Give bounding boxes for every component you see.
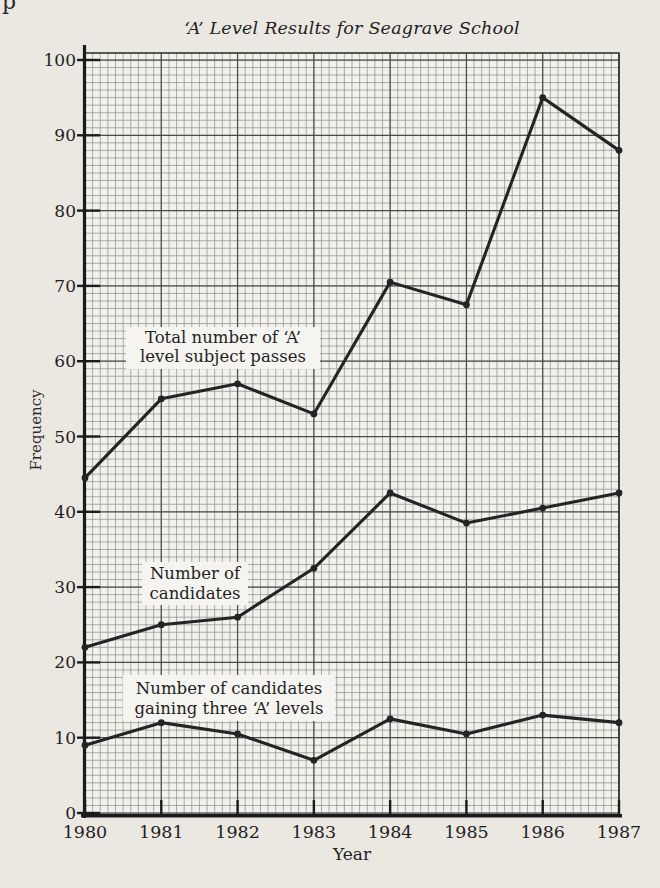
y-tick-label: 30	[54, 577, 76, 597]
data-point	[158, 719, 165, 726]
series-label-text: gaining three ‘A’ levels	[135, 699, 324, 718]
data-point	[310, 565, 317, 572]
x-tick-label: 1984	[368, 822, 413, 842]
data-point	[539, 505, 546, 512]
x-tick-labels: 19801981198219831984198519861987	[63, 822, 642, 842]
scanned-book-page: p ‘A’ Level Results for Seagrave School …	[0, 0, 660, 888]
data-point	[463, 520, 470, 527]
series-label-2: Number of candidatesgaining three ‘A’ le…	[123, 675, 335, 721]
y-tick-label: 90	[54, 125, 76, 145]
data-point	[387, 715, 394, 722]
data-point	[616, 719, 623, 726]
data-point	[463, 731, 470, 738]
series-label-text: Total number of ‘A’	[145, 328, 301, 347]
x-tick-label: 1987	[597, 822, 642, 842]
x-tick-label: 1986	[520, 822, 565, 842]
y-tick-labels: 0102030405060708090100	[44, 50, 76, 823]
data-point	[310, 411, 317, 418]
x-tick-label: 1982	[215, 822, 260, 842]
x-tick-label: 1983	[292, 822, 337, 842]
data-point	[616, 147, 623, 154]
x-axis-label: Year	[85, 844, 619, 864]
data-point	[539, 712, 546, 719]
series-label-text: Number of candidates	[136, 679, 322, 698]
y-tick-label: 50	[54, 427, 76, 447]
series-label-0: Total number of ‘A’level subject passes	[126, 327, 320, 369]
x-tick-label: 1985	[444, 822, 489, 842]
y-tick-label: 20	[54, 652, 76, 672]
data-point	[387, 279, 394, 286]
data-point	[616, 490, 623, 497]
data-point	[234, 614, 241, 621]
series-label-1: Number ofcandidates	[142, 562, 248, 605]
data-point	[539, 94, 546, 101]
y-tick-label: 60	[54, 351, 76, 371]
x-tick-label: 1980	[63, 822, 108, 842]
data-point	[310, 757, 317, 764]
data-point	[234, 380, 241, 387]
data-point	[234, 731, 241, 738]
y-tick-label: 40	[54, 502, 76, 522]
data-point	[158, 395, 165, 402]
data-point	[82, 475, 89, 482]
data-point	[158, 621, 165, 628]
line-chart: Total number of ‘A’level subject passesN…	[0, 0, 660, 888]
y-tick-label: 100	[44, 50, 76, 70]
data-point	[82, 644, 89, 651]
y-tick-label: 10	[54, 728, 76, 748]
data-point	[463, 301, 470, 308]
series-label-text: Number of	[150, 564, 242, 583]
data-point	[82, 742, 89, 749]
y-tick-label: 80	[54, 201, 76, 221]
y-tick-label: 70	[54, 276, 76, 296]
data-point	[387, 490, 394, 497]
y-tick-label: 0	[65, 803, 76, 823]
x-tick-label: 1981	[139, 822, 184, 842]
series-label-text: level subject passes	[140, 347, 306, 366]
series-label-text: candidates	[150, 584, 241, 603]
